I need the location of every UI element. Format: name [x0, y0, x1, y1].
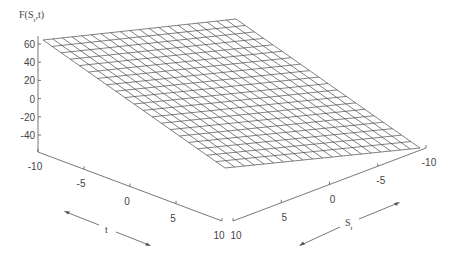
- tick-label: -10: [422, 157, 437, 168]
- tick-label: 60: [24, 39, 36, 50]
- tick-label: 5: [281, 212, 287, 223]
- t-axis-ticks: -10-50510: [28, 149, 225, 241]
- tick-label: 0: [330, 194, 336, 205]
- s-axis-title: St: [299, 202, 400, 246]
- tick-label: -10: [28, 161, 43, 172]
- z-axis-label: F(St,t): [19, 9, 44, 24]
- tick-label: -5: [376, 175, 385, 186]
- s-axis-ticks: 1050-5-10: [230, 145, 436, 241]
- tick-label: 10: [230, 230, 242, 241]
- tick-label: 0: [124, 196, 130, 207]
- t-axis-label: t: [105, 224, 108, 235]
- tick-label: 20: [24, 75, 36, 86]
- t-axis-title: t: [64, 211, 151, 246]
- tick-label: 10: [213, 230, 225, 241]
- z-axis-title: F(St,t): [19, 9, 44, 24]
- tick-label: 0: [29, 94, 35, 105]
- tick-label: 40: [24, 57, 36, 68]
- surface-plot: 6040200-20-40 -10-50510 1050-5-10 F(St,t…: [0, 0, 449, 259]
- tick-label: -40: [21, 130, 36, 141]
- tick-label: -20: [21, 112, 36, 123]
- tick-label: -5: [77, 178, 86, 189]
- tick-label: 5: [170, 213, 176, 224]
- wireframe-surface: [43, 19, 420, 168]
- s-axis-label: St: [345, 217, 353, 232]
